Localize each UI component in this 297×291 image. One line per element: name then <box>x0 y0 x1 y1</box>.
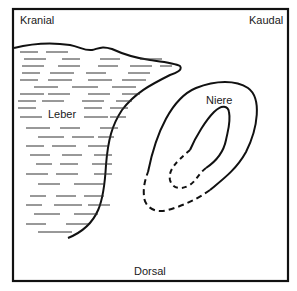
liver-hatching <box>18 52 172 232</box>
diagram-frame <box>13 9 288 281</box>
kidney-pelvis-contour <box>190 107 230 168</box>
kidney-outer-contour <box>148 82 257 190</box>
kidney-pelvis-contour-dashed <box>170 150 206 188</box>
label-kaudal: Kaudal <box>249 14 283 26</box>
anatomy-diagram: Kranial Kaudal Dorsal Leber Niere <box>0 0 297 291</box>
label-dorsal: Dorsal <box>134 265 166 277</box>
kidney-outer-contour-dashed <box>144 172 210 211</box>
label-kranial: Kranial <box>20 14 54 26</box>
label-niere: Niere <box>206 94 232 106</box>
label-leber: Leber <box>48 108 76 120</box>
